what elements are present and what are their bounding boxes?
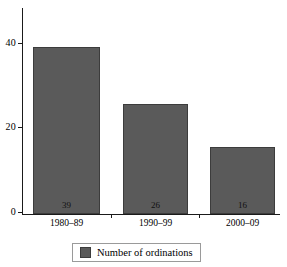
- y-tick-label-40: 40: [6, 38, 16, 48]
- x-category-label-2000-09: 2000–09: [210, 218, 275, 229]
- plot-area: 40 20 0 39 26 16 1980–89 1990–99 2000–09: [0, 0, 287, 222]
- bar-value-2000-09: 16: [211, 201, 274, 210]
- bar-chart: 40 20 0 39 26 16 1980–89 1990–99 2000–09…: [0, 0, 287, 267]
- y-tick-mark-40: [18, 43, 23, 44]
- x-axis-line: [22, 214, 280, 215]
- legend-swatch-icon: [80, 247, 91, 258]
- y-tick-mark-20: [18, 127, 23, 128]
- x-category-label-1990-99: 1990–99: [123, 218, 188, 229]
- bar-2000-09: 16: [210, 147, 275, 214]
- y-tick-label-0: 0: [11, 207, 16, 217]
- x-tick-mark-2: [199, 214, 200, 218]
- y-axis-line: [22, 8, 23, 215]
- x-category-label-1980-89: 1980–89: [33, 218, 100, 229]
- x-tick-mark-1: [111, 214, 112, 218]
- bar-1980-89: 39: [33, 47, 100, 214]
- chart-legend: Number of ordinations: [72, 243, 201, 262]
- bar-value-1980-89: 39: [34, 201, 99, 210]
- bar-value-1990-99: 26: [124, 201, 187, 210]
- bar-1990-99: 26: [123, 104, 188, 214]
- y-tick-label-20: 20: [6, 122, 16, 132]
- legend-label: Number of ordinations: [97, 247, 193, 258]
- y-tick-mark-0: [18, 212, 23, 213]
